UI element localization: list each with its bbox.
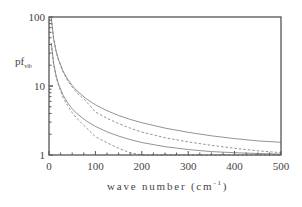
x-axis-label-superscript: -1	[213, 179, 222, 187]
curve-upper-solid	[51, 18, 281, 142]
x-tick-label: 400	[226, 160, 243, 172]
x-tick-label: 100	[87, 160, 104, 172]
x-tick-label: 300	[180, 160, 197, 172]
x-axis-label: wave number (cm-1)	[107, 179, 228, 193]
x-axis-ticks: 0100200300400500	[46, 151, 290, 172]
curve-upper-dashed	[51, 18, 281, 153]
x-tick-label: 200	[134, 160, 151, 172]
y-axis-label: pfvib	[15, 55, 32, 69]
y-tick-label: 10	[34, 80, 46, 92]
curve-lower-dashed	[51, 43, 281, 155]
plot-frame	[49, 17, 281, 155]
y-tick-label: 1	[40, 149, 46, 161]
x-tick-label: 0	[46, 160, 52, 172]
y-tick-label: 100	[29, 11, 46, 23]
chart: 0100200300400500 110100 pfvib wave numbe…	[0, 0, 302, 207]
plot-curves	[51, 18, 281, 155]
x-tick-label: 500	[273, 160, 290, 172]
y-axis-label-subscript: vib	[24, 63, 32, 69]
